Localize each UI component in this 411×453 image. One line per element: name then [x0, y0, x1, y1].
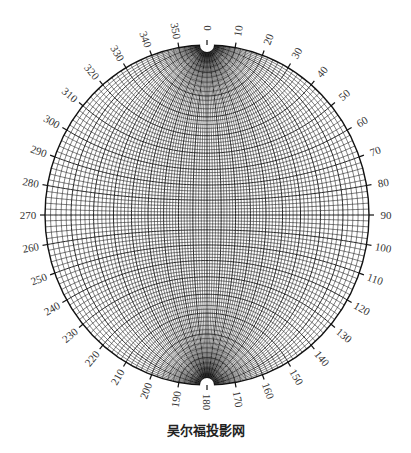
azimuth-label: 300 [42, 112, 63, 131]
azimuth-label: 350 [169, 22, 184, 41]
azimuth-label: 330 [108, 43, 127, 64]
azimuth-label: 310 [60, 85, 81, 105]
azimuth-label: 100 [374, 240, 393, 255]
azimuth-label: 50 [336, 86, 353, 103]
azimuth-label: 20 [261, 32, 276, 47]
azimuth-label: 290 [29, 143, 49, 160]
azimuth-label: 200 [137, 380, 154, 400]
azimuth-label: 210 [108, 366, 127, 387]
azimuth-label: 40 [314, 63, 331, 80]
azimuth-label: 120 [352, 299, 373, 318]
azimuth-label: 0 [201, 25, 213, 31]
azimuth-label: 60 [354, 113, 370, 129]
azimuth-label: 30 [289, 45, 305, 61]
azimuth-label: 230 [60, 325, 81, 345]
azimuth-label: 180 [201, 394, 213, 411]
azimuth-label: 160 [260, 381, 277, 401]
azimuth-label: 90 [381, 209, 393, 221]
azimuth-label: 190 [169, 390, 184, 409]
azimuth-label: 220 [82, 348, 102, 369]
azimuth-label: 70 [368, 143, 383, 158]
azimuth-label: 280 [22, 175, 41, 190]
azimuth-label: 10 [231, 24, 245, 37]
azimuth-label: 320 [82, 62, 102, 83]
azimuth-label: 340 [137, 29, 154, 49]
azimuth-label: 170 [231, 390, 246, 409]
azimuth-label: 130 [334, 325, 355, 345]
azimuth-label: 150 [287, 367, 306, 388]
azimuth-label: 270 [20, 209, 37, 221]
azimuth-label: 250 [29, 270, 49, 287]
azimuth-label: 260 [22, 240, 41, 255]
azimuth-label: 140 [312, 348, 332, 369]
azimuth-label: 110 [366, 271, 386, 288]
figure-caption: 吴尔福投影网 [0, 420, 411, 439]
wulff-net: 0102030405060708090100110120130140150160… [0, 0, 411, 453]
azimuth-label: 80 [377, 176, 390, 190]
azimuth-label: 240 [42, 299, 63, 318]
